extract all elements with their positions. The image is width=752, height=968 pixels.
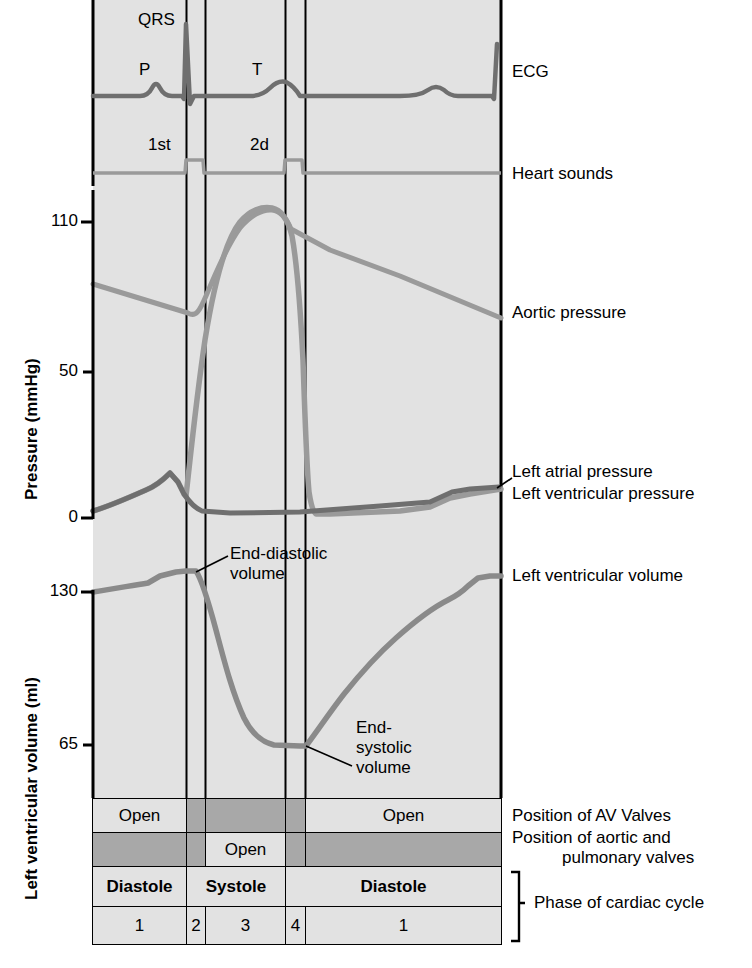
label-phase-of-cardiac-cycle: Phase of cardiac cycle: [534, 893, 704, 913]
phase-name-systole: Systole: [186, 866, 286, 907]
volume-axis-title: Left ventricular volume (ml): [22, 677, 42, 900]
label-aortic-pulmonary-valves-l1: Position of aortic and: [512, 828, 671, 848]
phase-number-5: 1: [305, 906, 502, 945]
heart-sound-second-label: 2d: [250, 135, 269, 155]
label-aortic-pulmonary-valves-l2: pulmonary valves: [562, 848, 694, 868]
tick-pressure-0: 0: [20, 507, 78, 527]
end-systolic-line3: volume: [356, 758, 412, 778]
label-left-atrial-pressure: Left atrial pressure: [512, 462, 653, 482]
ecg-t-label: T: [252, 60, 262, 80]
label-heart-sounds: Heart sounds: [512, 164, 613, 184]
annotation-end-diastolic-volume: End-diastolic volume: [230, 544, 327, 584]
av-valve-cell-phase1: Open: [92, 798, 187, 833]
tick-pressure-110: 110: [20, 211, 78, 231]
av-valve-cell-phase2: [186, 798, 206, 833]
la-pressure-trace: [93, 473, 499, 513]
tick-volume-65: 65: [20, 734, 78, 754]
label-left-ventricular-volume: Left ventricular volume: [512, 566, 683, 586]
wiggers-diagram: Pressure (mmHg) Left ventricular volume …: [0, 0, 752, 968]
ecg-p-label: P: [139, 60, 150, 80]
phase-brace: [511, 872, 525, 941]
ecg-trace: [93, 24, 497, 104]
end-diastolic-leader: [196, 556, 228, 572]
lv-volume-trace: [93, 571, 501, 746]
lv-pressure-trace: [93, 208, 501, 514]
heart-sound-first-label: 1st: [148, 135, 171, 155]
phase-number-2: 2: [186, 906, 206, 945]
label-ecg: ECG: [512, 62, 549, 82]
semilunar-valve-cell-phase2: [186, 832, 206, 867]
heart-sounds-trace: [93, 160, 501, 173]
end-systolic-line2: systolic: [356, 738, 412, 758]
label-av-valves: Position of AV Valves: [512, 806, 671, 826]
phase-name-diastole-1: Diastole: [92, 866, 187, 907]
av-valve-cell-phase5: Open: [305, 798, 502, 833]
tick-volume-130: 130: [20, 581, 78, 601]
semilunar-valve-cell-phase3: Open: [205, 832, 286, 867]
end-systolic-line1: End-: [356, 718, 412, 738]
annotation-end-systolic-volume: End- systolic volume: [356, 718, 412, 778]
phase-number-4: 4: [285, 906, 306, 945]
tick-pressure-50: 50: [20, 361, 78, 381]
label-left-ventricular-pressure: Left ventricular pressure: [512, 484, 694, 504]
la-pressure-leader: [497, 478, 512, 488]
av-valve-cell-phase4: [285, 798, 306, 833]
phase-number-1: 1: [92, 906, 187, 945]
phase-name-diastole-2: Diastole: [285, 866, 502, 907]
av-valve-cell-phase3: [205, 798, 286, 833]
ecg-qrs-label: QRS: [138, 10, 175, 30]
end-systolic-leader: [306, 746, 352, 766]
end-diastolic-line1: End-diastolic: [230, 544, 327, 564]
semilunar-valve-cell-phase5: [305, 832, 502, 867]
end-diastolic-line2: volume: [230, 564, 327, 584]
semilunar-valve-cell-phase4: [285, 832, 306, 867]
label-aortic-pressure: Aortic pressure: [512, 303, 626, 323]
phase-number-3: 3: [205, 906, 286, 945]
semilunar-valve-cell-phase1: [92, 832, 187, 867]
